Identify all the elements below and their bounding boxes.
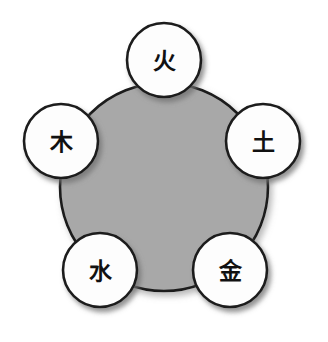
wuxing-diagram-canvas: 火 土 金 水 木 xyxy=(0,0,328,342)
node-water-label: 水 xyxy=(89,258,113,284)
node-wood-label: 木 xyxy=(49,129,73,155)
node-wood[interactable]: 木 xyxy=(24,104,98,178)
node-metal-label: 金 xyxy=(218,258,243,284)
wuxing-diagram: 火 土 金 水 木 xyxy=(0,0,328,342)
node-fire-label: 火 xyxy=(153,48,176,74)
node-earth[interactable]: 土 xyxy=(226,104,300,178)
node-metal[interactable]: 金 xyxy=(193,233,267,307)
node-water[interactable]: 水 xyxy=(63,233,137,307)
node-earth-label: 土 xyxy=(252,129,275,155)
node-fire[interactable]: 火 xyxy=(127,23,201,97)
